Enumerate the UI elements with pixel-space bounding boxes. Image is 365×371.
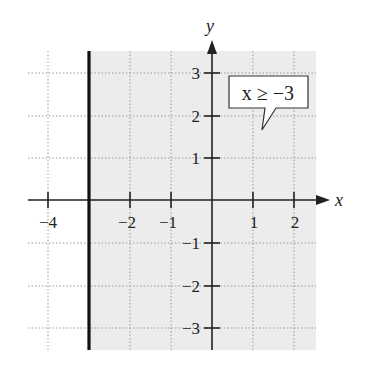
x-axis-arrow-icon — [316, 195, 330, 205]
x-tick-label: 1 — [250, 213, 259, 232]
y-axis-arrow-icon — [207, 40, 217, 54]
x-tick-label: 2 — [291, 213, 300, 232]
x-tick-label: −1 — [159, 213, 177, 232]
x-tick-label: −2 — [118, 213, 136, 232]
y-tick-label: 2 — [192, 107, 201, 126]
callout-text: x ≥ −3 — [242, 82, 294, 104]
y-tick-label: 1 — [192, 149, 201, 168]
x-axis-label: x — [334, 190, 343, 210]
y-tick-label: −2 — [182, 277, 200, 296]
y-tick-label: −3 — [182, 319, 200, 338]
y-tick-label: 3 — [192, 64, 201, 83]
y-tick-label: −1 — [182, 234, 200, 253]
x-tick-label: −4 — [39, 213, 58, 232]
y-axis-label: y — [204, 16, 214, 36]
inequality-graph: x y −4 −2 −1 1 2 3 2 1 −1 −2 −3 x ≥ −3 — [0, 0, 365, 371]
